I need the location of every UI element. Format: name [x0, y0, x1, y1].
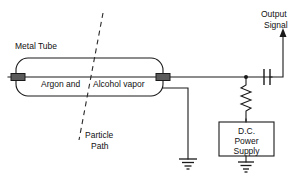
output-signal-label-line1: Output [261, 9, 287, 19]
output-signal-label-line2: Signal [264, 20, 288, 30]
psu-label-line2: Power [219, 136, 274, 146]
tube-ground-symbol [179, 159, 197, 169]
cathode-lead-wire [163, 88, 188, 159]
left-endcap-insulator [11, 74, 25, 81]
output-signal-wire [270, 34, 283, 77]
geiger-counter-diagram: Metal Tube Argon and Alcohol vapor Parti… [0, 0, 294, 176]
power-supply-ground-symbol [238, 162, 254, 172]
metal-tube-label: Metal Tube [15, 41, 57, 51]
psu-label-line1: D.C. [219, 126, 274, 136]
particle-path-label-line2: Path [91, 141, 109, 151]
psu-label-line3: Supply [219, 146, 274, 156]
gas-fill-label-argon: Argon and [41, 79, 80, 89]
load-resistor-symbol [241, 77, 251, 121]
particle-path-label-line1: Particle [85, 130, 113, 140]
gas-fill-label-alcohol: Alcohol vapor [93, 79, 145, 89]
right-endcap-insulator [156, 74, 170, 81]
